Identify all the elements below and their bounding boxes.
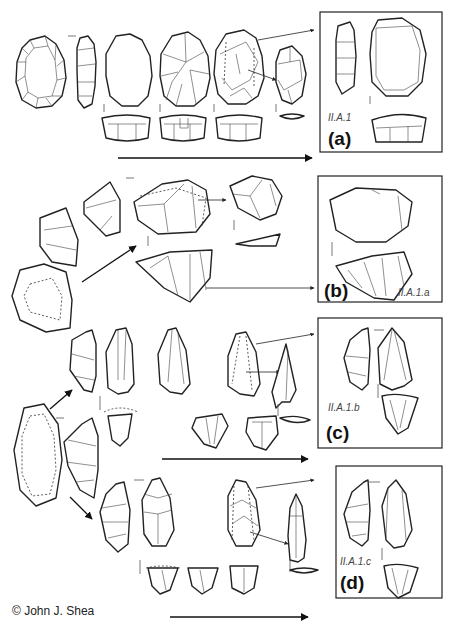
row-d-sequence bbox=[70, 478, 318, 617]
type-code-d: II.A.1.c bbox=[340, 556, 371, 567]
panel-letter-d: (d) bbox=[340, 572, 364, 594]
core-with-preferential-flake-scar bbox=[214, 30, 264, 141]
copyright-credit: © John J. Shea bbox=[12, 604, 94, 618]
core-profile bbox=[68, 36, 96, 108]
type-code-c: II.A.1.b bbox=[328, 402, 360, 413]
panel-letter-b: (b) bbox=[324, 280, 348, 302]
reduction-sequence-diagram bbox=[0, 0, 453, 627]
core-centripetal-flaking bbox=[160, 32, 210, 141]
panel-letter-a: (a) bbox=[328, 128, 351, 150]
type-code-a: II.A.1 bbox=[328, 112, 351, 123]
row-c-sequence bbox=[14, 328, 314, 506]
row-b-sequence bbox=[12, 176, 314, 332]
nodule-triangular bbox=[12, 264, 72, 332]
panel-letter-c: (c) bbox=[326, 422, 349, 444]
row-a-sequence bbox=[16, 30, 314, 158]
preferential-flake bbox=[276, 46, 306, 119]
core-blank-face bbox=[102, 34, 152, 141]
core-prepared-periphery bbox=[16, 36, 66, 108]
type-code-b: II.A.1.a bbox=[398, 287, 430, 298]
